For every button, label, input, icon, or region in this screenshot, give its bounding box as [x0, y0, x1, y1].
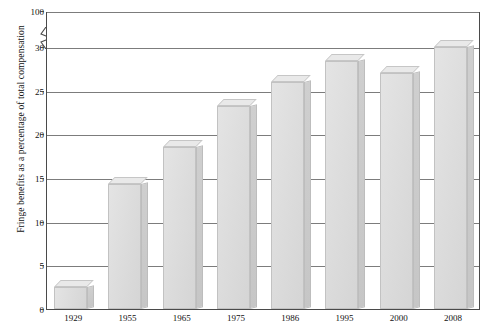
bar-top-face [163, 140, 203, 147]
bar [163, 140, 203, 309]
y-axis-tick-mark [40, 134, 44, 135]
bar-side-face [358, 59, 365, 309]
x-axis-tick-labels: 19291955196519751986199520002008 [46, 313, 480, 333]
plot-area [46, 12, 480, 310]
y-axis-tick-label: 20 [18, 130, 44, 140]
bar-front-face [163, 147, 196, 309]
bar-side-face [250, 105, 257, 309]
x-axis-tick-label: 2000 [390, 313, 408, 323]
x-axis-tick-label: 1955 [118, 313, 136, 323]
bar [434, 40, 474, 309]
bar-side-face [196, 146, 203, 309]
y-axis-tick-mark [40, 309, 44, 310]
bar-front-face [108, 184, 141, 309]
y-axis-tick-labels: 051015202530100 [14, 12, 44, 310]
bar-front-face [271, 82, 304, 309]
bar-front-face [380, 73, 413, 309]
bar [380, 66, 420, 309]
y-axis-tick-label: 10 [18, 218, 44, 228]
bar [108, 177, 148, 309]
y-axis-tick-mark [40, 265, 44, 266]
y-axis-tick-label: 15 [18, 174, 44, 184]
bar [54, 280, 94, 309]
bar [271, 75, 311, 309]
x-axis-tick-label: 2008 [444, 313, 462, 323]
x-axis-tick-label: 1986 [281, 313, 299, 323]
y-axis-tick-mark [40, 91, 44, 92]
bar-top-face [434, 40, 474, 47]
bar-top-face [271, 75, 311, 82]
y-axis-tick-mark [40, 11, 44, 12]
bar-front-face [54, 287, 87, 309]
bar-side-face [87, 285, 94, 309]
bar-front-face [434, 47, 467, 309]
y-axis-tick-label: 5 [18, 261, 44, 271]
y-axis-tick-label: 25 [18, 87, 44, 97]
bar-side-face [413, 71, 420, 309]
x-axis-tick-label: 1929 [64, 313, 82, 323]
bar-chart: Fringe benefits as a percentage of total… [0, 0, 489, 335]
y-axis-tick-mark [40, 178, 44, 179]
bar [217, 99, 257, 309]
y-axis-tick-label: 100 [18, 7, 44, 17]
bar-front-face [217, 106, 250, 309]
bar-side-face [141, 182, 148, 309]
bar [325, 54, 365, 309]
bar-series [47, 13, 479, 309]
bar-side-face [304, 80, 311, 309]
bar-side-face [467, 45, 474, 309]
x-axis-tick-label: 1995 [335, 313, 353, 323]
x-axis-tick-label: 1975 [227, 313, 245, 323]
y-axis-tick-label: 0 [18, 305, 44, 315]
x-axis-tick-label: 1965 [173, 313, 191, 323]
bar-front-face [325, 61, 358, 309]
bar-top-face [380, 66, 420, 73]
y-axis-tick-mark [40, 222, 44, 223]
